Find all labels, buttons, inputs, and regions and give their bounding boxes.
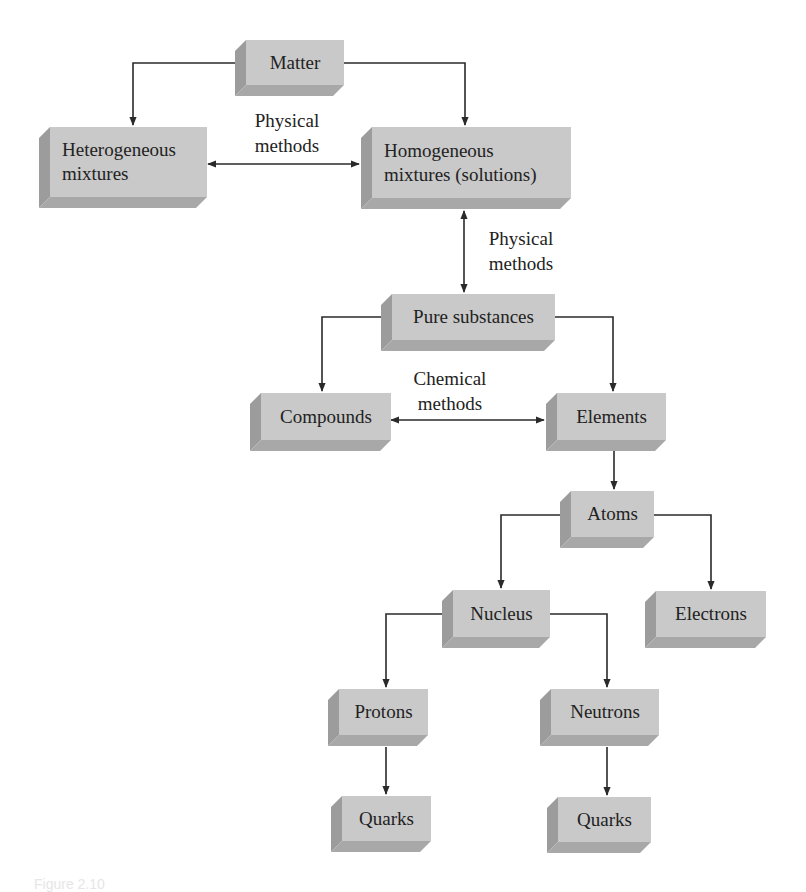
node-label: Quarks <box>577 808 632 832</box>
node-quarks-from-protons: Quarks <box>331 796 431 852</box>
box-face: Electrons <box>656 591 766 637</box>
box-face: Protons <box>339 689 428 735</box>
connector-pure-to-elements <box>555 317 613 391</box>
connector-matter-to-homogeneous <box>333 63 465 125</box>
box-side <box>361 127 372 209</box>
node-label: Protons <box>354 700 412 724</box>
edge-label-physical-methods-vertical: Physical methods <box>476 226 566 276</box>
node-quarks-from-neutrons: Quarks <box>547 797 651 853</box>
box-bottom <box>361 198 571 209</box>
node-nucleus: Nucleus <box>442 590 550 648</box>
box-bottom <box>328 735 428 746</box>
node-elements: Elements <box>546 393 666 451</box>
box-face: Quarks <box>342 796 431 841</box>
box-face: Pure substances <box>392 294 555 340</box>
node-heterogeneous-mixtures: Heterogeneous mixtures <box>39 127 207 208</box>
node-homogeneous-mixtures: Homogeneous mixtures (solutions) <box>361 127 571 209</box>
node-label: Quarks <box>359 807 414 831</box>
connector-atoms-to-electrons <box>654 515 711 589</box>
box-bottom <box>547 842 651 853</box>
box-bottom <box>546 440 666 451</box>
box-face: Neutrons <box>551 689 659 735</box>
box-side <box>39 127 50 208</box>
box-bottom <box>381 340 555 351</box>
box-face: Matter <box>246 40 344 85</box>
box-bottom <box>250 440 391 451</box>
node-label: Compounds <box>280 405 372 429</box>
box-bottom <box>540 735 659 746</box>
box-face: Quarks <box>558 797 651 842</box>
edge-label-chemical-methods: Chemical methods <box>400 366 500 416</box>
node-electrons: Electrons <box>645 591 766 648</box>
box-face: Elements <box>557 393 666 440</box>
node-pure-substances: Pure substances <box>381 294 555 351</box>
box-face: Atoms <box>571 491 654 537</box>
box-bottom <box>39 197 207 208</box>
node-label: Matter <box>270 51 321 75</box>
box-bottom <box>560 537 654 548</box>
node-label: Electrons <box>675 602 747 626</box>
box-bottom <box>645 637 766 648</box>
connector-matter-to-heterogeneous <box>133 63 245 125</box>
node-atoms: Atoms <box>560 491 654 548</box>
node-neutrons: Neutrons <box>540 689 659 746</box>
node-label: Heterogeneous mixtures <box>62 138 176 186</box>
node-label: Nucleus <box>470 602 532 626</box>
edge-label-physical-methods-horizontal: Physical methods <box>242 108 332 158</box>
box-bottom <box>442 637 550 648</box>
box-face: Heterogeneous mixtures <box>50 127 207 197</box>
box-face: Homogeneous mixtures (solutions) <box>372 127 571 198</box>
connector-nucleus-to-neutrons <box>550 614 607 687</box>
box-face: Compounds <box>261 393 391 440</box>
node-protons: Protons <box>328 689 428 746</box>
figure-caption-fragment: Figure 2.10 <box>34 876 105 892</box>
node-label: Homogeneous mixtures (solutions) <box>384 139 537 187</box>
node-label: Neutrons <box>570 700 640 724</box>
node-label: Atoms <box>587 502 638 526</box>
box-bottom <box>235 85 344 96</box>
box-face: Nucleus <box>453 590 550 637</box>
node-label: Pure substances <box>413 305 534 329</box>
box-bottom <box>331 841 431 852</box>
node-matter: Matter <box>235 40 344 96</box>
node-compounds: Compounds <box>250 393 391 451</box>
node-label: Elements <box>576 405 647 429</box>
